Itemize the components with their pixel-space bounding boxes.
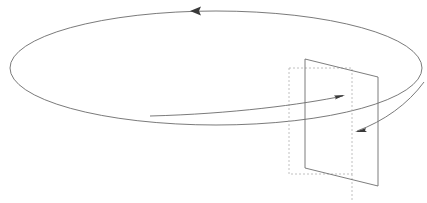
orbit-ellipse-path <box>10 11 422 125</box>
diagram-canvas <box>0 0 427 203</box>
normal-arrow-group <box>150 95 345 116</box>
reference-box-group <box>289 68 352 200</box>
surface-plane-group <box>305 59 378 186</box>
geometry-diagram <box>0 0 427 203</box>
normal-arrow-shaft <box>150 96 343 116</box>
orbit-ellipse-group <box>10 11 422 125</box>
exit-curve-arrowhead <box>355 128 367 132</box>
normal-arrow-head <box>334 95 345 99</box>
surface-plane <box>305 59 378 186</box>
reference-box <box>289 68 352 174</box>
